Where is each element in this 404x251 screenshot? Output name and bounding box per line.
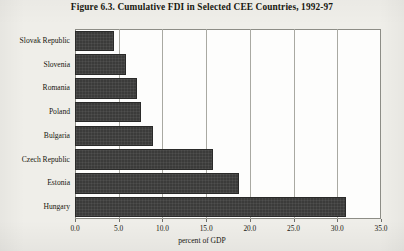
category-label: Hungary xyxy=(43,203,70,211)
category-label: Estonia xyxy=(47,179,70,187)
bar-row xyxy=(75,102,381,122)
category-label: Czech Republic xyxy=(22,156,70,164)
x-tick xyxy=(162,219,163,222)
bar-row xyxy=(75,54,381,74)
x-axis-title: percent of GDP xyxy=(0,236,404,245)
bar-row xyxy=(75,126,381,146)
bar-row xyxy=(75,31,381,51)
x-tick xyxy=(75,219,76,222)
bar-row xyxy=(75,149,381,169)
plot-area xyxy=(75,29,381,219)
x-tick xyxy=(119,219,120,222)
category-label: Bulgaria xyxy=(44,132,70,140)
bar xyxy=(75,126,153,146)
category-label: Romania xyxy=(43,84,70,92)
x-tick xyxy=(337,219,338,222)
x-tick-label: 5.0 xyxy=(102,224,136,233)
x-tick-label: 0.0 xyxy=(58,224,92,233)
bar-row xyxy=(75,173,381,193)
bar xyxy=(75,197,346,217)
bar xyxy=(75,54,126,74)
category-label: Poland xyxy=(49,108,70,116)
x-tick xyxy=(381,219,382,222)
bar xyxy=(75,102,141,122)
category-label: Slovak Republic xyxy=(20,37,70,45)
x-tick-label: 20.0 xyxy=(233,224,267,233)
x-tick-label: 25.0 xyxy=(277,224,311,233)
bar xyxy=(75,31,114,51)
x-tick-label: 10.0 xyxy=(145,224,179,233)
x-tick xyxy=(294,219,295,222)
x-tick xyxy=(250,219,251,222)
category-label: Slovenia xyxy=(43,61,70,69)
bar-row xyxy=(75,197,381,217)
bar xyxy=(75,149,213,169)
bar-series xyxy=(75,29,381,219)
bar xyxy=(75,78,137,98)
bar-chart: Slovak RepublicSloveniaRomaniaPolandBulg… xyxy=(0,0,404,251)
bar xyxy=(75,173,239,193)
bar-row xyxy=(75,78,381,98)
x-tick-label: 35.0 xyxy=(364,224,398,233)
x-tick-label: 30.0 xyxy=(320,224,354,233)
x-tick-label: 15.0 xyxy=(189,224,223,233)
x-tick xyxy=(206,219,207,222)
